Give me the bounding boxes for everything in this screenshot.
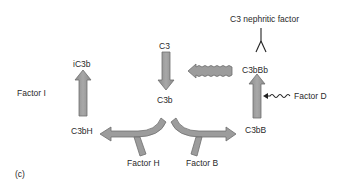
label-factor-h: Factor H [127,158,160,168]
node-c3bb: C3bB [245,125,266,135]
complement-pathway-diagram: C3 C3b iC3b C3bH C3bB C3bBb Factor I Fac… [0,0,343,184]
node-c3b: C3b [157,95,173,105]
antibody-y-icon [256,28,266,52]
label-factor-d: Factor D [294,91,327,101]
c3b-to-c3bh-arrow [100,118,166,156]
c3-to-c3b-arrow [158,52,174,90]
node-c3bh: C3bH [71,126,93,136]
c3bh-to-ic3b-arrow [75,70,91,116]
label-c3-nephritic-factor: C3 nephritic factor [230,14,299,24]
node-ic3b: iC3b [73,59,90,69]
node-c3: C3 [159,41,170,51]
diagram-graphics [0,0,343,184]
c3b-to-c3bb-arrow [171,118,236,156]
node-c3bbb: C3bBb [242,65,268,75]
factor-d-squiggle-arrow [263,93,290,99]
label-factor-b: Factor B [186,158,218,168]
label-factor-i: Factor I [17,88,46,98]
c3bb-to-c3bbb-arrow [249,74,265,118]
c3bbb-to-c3-wavy-arrow [188,64,232,78]
panel-label: (c) [15,169,25,179]
